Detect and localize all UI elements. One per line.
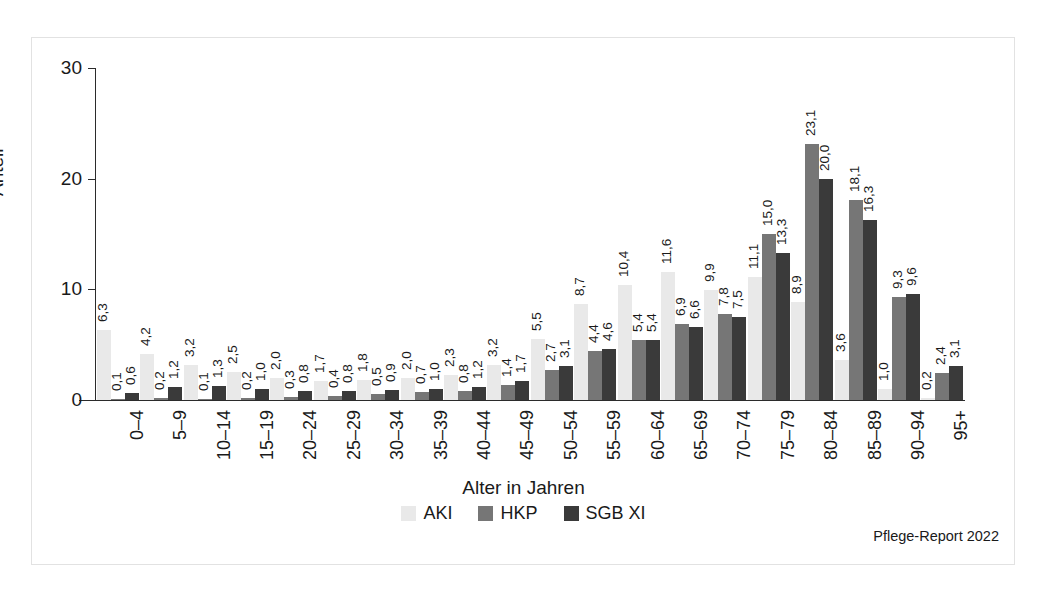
y-axis-tick-label: 10	[42, 278, 82, 300]
bar-sgb-xi[interactable]: 4,6	[602, 68, 616, 400]
bar-aki[interactable]: 2,0	[401, 68, 415, 400]
bar-value-label: 23,1	[803, 110, 818, 136]
bar-value-label: 0,1	[196, 372, 211, 391]
bar-group-bars: 8,74,44,6	[574, 68, 616, 400]
bar-group-bars: 2,30,81,2	[444, 68, 486, 400]
x-axis-tick-label: 25–29	[344, 410, 365, 460]
bar-sgb-xi[interactable]: 7,5	[732, 68, 746, 400]
bar-aki[interactable]: 6,3	[97, 68, 111, 400]
bar-sgb-xi[interactable]: 1,3	[212, 68, 226, 400]
bar-sgb-xi[interactable]: 3,1	[559, 68, 573, 400]
bar-aki[interactable]: 10,4	[618, 68, 632, 400]
bar-aki[interactable]: 2,3	[444, 68, 458, 400]
bar-value-label: 0,2	[152, 371, 167, 390]
bar-hkp[interactable]: 0,2	[154, 68, 168, 400]
bar-fill	[328, 396, 342, 400]
bar-aki[interactable]: 8,7	[574, 68, 588, 400]
bar-value-label: 16,3	[861, 185, 876, 211]
bar-sgb-xi[interactable]: 13,3	[776, 68, 790, 400]
bar-hkp[interactable]: 0,7	[415, 68, 429, 400]
bar-value-label: 2,7	[543, 343, 558, 362]
bar-aki[interactable]: 1,0	[878, 68, 892, 400]
bar-sgb-xi[interactable]: 20,0	[819, 68, 833, 400]
bar-value-label: 6,3	[95, 304, 110, 323]
bar-fill	[762, 234, 776, 400]
bar-fill	[732, 317, 746, 400]
bar-group-bars: 10,45,45,4	[618, 68, 660, 400]
bar-group-bars: 2,00,71,0	[401, 68, 443, 400]
bar-fill	[675, 324, 689, 400]
bar-aki[interactable]: 4,2	[140, 68, 154, 400]
legend-item-aki[interactable]: AKI	[401, 503, 452, 524]
x-axis-line	[79, 400, 965, 401]
bar-aki[interactable]: 1,7	[314, 68, 328, 400]
bar-fill	[212, 386, 226, 400]
bar-value-label: 0,8	[456, 364, 471, 383]
bar-sgb-xi[interactable]: 16,3	[863, 68, 877, 400]
bar-hkp[interactable]: 0,1	[198, 68, 212, 400]
bar-value-label: 3,1	[557, 339, 572, 358]
bar-hkp[interactable]: 0,3	[284, 68, 298, 400]
bar-hkp[interactable]: 23,1	[805, 68, 819, 400]
bar-fill	[921, 398, 935, 400]
bar-value-label: 6,9	[673, 297, 688, 316]
bar-sgb-xi[interactable]: 1,0	[255, 68, 269, 400]
bar-hkp[interactable]: 9,3	[892, 68, 906, 400]
bar-hkp[interactable]: 0,4	[328, 68, 342, 400]
bar-hkp[interactable]: 6,9	[675, 68, 689, 400]
bar-fill	[689, 327, 703, 400]
bar-sgb-xi[interactable]: 0,9	[385, 68, 399, 400]
bar-value-label: 1,0	[253, 362, 268, 381]
bar-aki[interactable]: 3,2	[184, 68, 198, 400]
bar-hkp[interactable]: 4,4	[588, 68, 602, 400]
bar-fill	[574, 304, 588, 400]
bar-hkp[interactable]: 18,1	[849, 68, 863, 400]
bar-hkp[interactable]: 5,4	[632, 68, 646, 400]
bar-aki[interactable]: 11,1	[748, 68, 762, 400]
bar-aki[interactable]: 1,8	[357, 68, 371, 400]
bar-sgb-xi[interactable]: 0,6	[125, 68, 139, 400]
x-axis-tick-label: 10–14	[214, 410, 235, 460]
bar-aki[interactable]: 3,2	[487, 68, 501, 400]
bar-value-label: 1,2	[166, 360, 181, 379]
bar-hkp[interactable]: 0,8	[458, 68, 472, 400]
bar-sgb-xi[interactable]: 1,0	[429, 68, 443, 400]
bar-aki[interactable]: 2,0	[270, 68, 284, 400]
bar-aki[interactable]: 11,6	[661, 68, 675, 400]
x-axis-tick-label: 45–49	[517, 410, 538, 460]
y-axis-tick	[88, 289, 95, 290]
bar-fill	[241, 398, 255, 400]
bar-sgb-xi[interactable]: 6,6	[689, 68, 703, 400]
bar-hkp[interactable]: 0,5	[371, 68, 385, 400]
bar-hkp[interactable]: 1,4	[501, 68, 515, 400]
bar-sgb-xi[interactable]: 9,6	[906, 68, 920, 400]
bar-sgb-xi[interactable]: 1,2	[168, 68, 182, 400]
x-axis-title: Alter in Jahren	[0, 477, 1047, 499]
bar-fill	[776, 253, 790, 400]
bar-hkp[interactable]: 0,1	[111, 68, 125, 400]
bar-sgb-xi[interactable]: 5,4	[646, 68, 660, 400]
bar-value-label: 0,5	[369, 368, 384, 387]
bar-sgb-xi[interactable]: 1,2	[472, 68, 486, 400]
bar-sgb-xi[interactable]: 3,1	[949, 68, 963, 400]
bar-value-label: 0,9	[383, 363, 398, 382]
bar-group-bars: 1,80,50,9	[357, 68, 399, 400]
bar-aki[interactable]: 9,9	[704, 68, 718, 400]
y-axis-tick-label-wrap: 10	[30, 289, 82, 290]
bar-sgb-xi[interactable]: 1,7	[515, 68, 529, 400]
bar-value-label: 1,0	[427, 362, 442, 381]
bar-value-label: 20,0	[817, 144, 832, 170]
bar-hkp[interactable]: 7,8	[718, 68, 732, 400]
bar-aki[interactable]: 2,5	[227, 68, 241, 400]
bar-sgb-xi[interactable]: 0,8	[342, 68, 356, 400]
bar-fill	[863, 220, 877, 400]
legend-item-hkp[interactable]: HKP	[478, 503, 537, 524]
bar-value-label: 7,5	[730, 290, 745, 309]
bar-value-label: 1,3	[210, 359, 225, 378]
bar-aki[interactable]: 3,6	[835, 68, 849, 400]
bar-hkp[interactable]: 0,2	[241, 68, 255, 400]
bar-value-label: 1,8	[355, 353, 370, 372]
bar-group-bars: 4,20,21,2	[140, 68, 182, 400]
legend-item-sgb-xi[interactable]: SGB XI	[564, 503, 646, 524]
bar-sgb-xi[interactable]: 0,8	[298, 68, 312, 400]
